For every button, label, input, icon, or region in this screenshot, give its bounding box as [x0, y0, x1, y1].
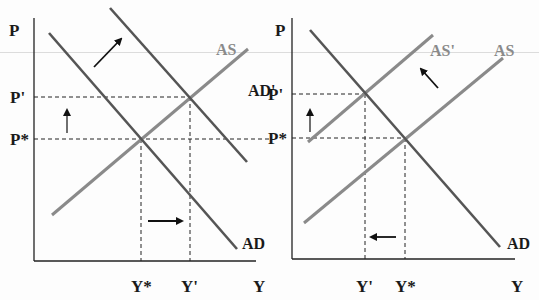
adas-figure: P P' P* Y* Y' Y AS AD' AD: [0, 0, 539, 300]
adas-diagrams-svg: P P' P* Y* Y' Y AS AD' AD: [0, 0, 539, 300]
left-y-star-label: Y*: [131, 277, 152, 296]
right-y-axis-label: P: [275, 21, 285, 40]
right-as-label: AS: [494, 42, 515, 59]
left-ad-label: AD: [242, 235, 265, 252]
right-y-star-label: Y*: [395, 277, 416, 296]
left-as-label: AS: [216, 41, 237, 58]
right-as-prime-label: AS': [430, 42, 455, 59]
left-ad-curve: [49, 33, 237, 249]
right-supply-shift-arrow-icon: [421, 69, 438, 88]
left-demand-shift-arrow-icon: [94, 39, 121, 67]
right-graph: P P' P* Y' Y* Y AS' AS AD: [268, 18, 530, 296]
left-graph: P P' P* Y* Y' Y AS AD' AD: [9, 8, 276, 296]
left-y-axis-label: P: [9, 21, 19, 40]
left-p-star-label: P*: [10, 130, 29, 149]
left-y-prime-label: Y': [181, 277, 198, 296]
left-ad-prime-curve: [110, 8, 247, 162]
right-p-prime-label: P': [268, 85, 283, 104]
right-p-star-label: P*: [268, 129, 287, 148]
right-x-axis-label: Y: [511, 277, 523, 296]
right-as-curve: [304, 58, 503, 223]
right-ad-label: AD: [507, 235, 530, 252]
left-x-axis-label: Y: [253, 277, 265, 296]
right-y-prime-label: Y': [356, 277, 373, 296]
left-p-prime-label: P': [10, 88, 25, 107]
right-ad-curve: [310, 30, 500, 247]
